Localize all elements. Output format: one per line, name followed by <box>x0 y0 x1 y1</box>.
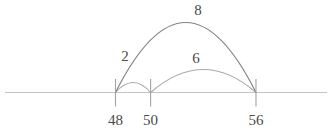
tick-label-50: 50 <box>143 112 158 128</box>
diagram-canvas: 268485056 <box>0 0 335 133</box>
arc-2 <box>116 83 151 93</box>
tick-label-48: 48 <box>108 112 123 128</box>
arc-label-8: 8 <box>194 2 202 18</box>
arc-label-2: 2 <box>121 48 129 64</box>
tick-label-56: 56 <box>248 112 264 128</box>
arc-label-6: 6 <box>192 50 200 66</box>
number-line-diagram: 268485056 <box>0 0 335 133</box>
arc-6 <box>151 70 256 93</box>
arc-8 <box>116 23 256 93</box>
